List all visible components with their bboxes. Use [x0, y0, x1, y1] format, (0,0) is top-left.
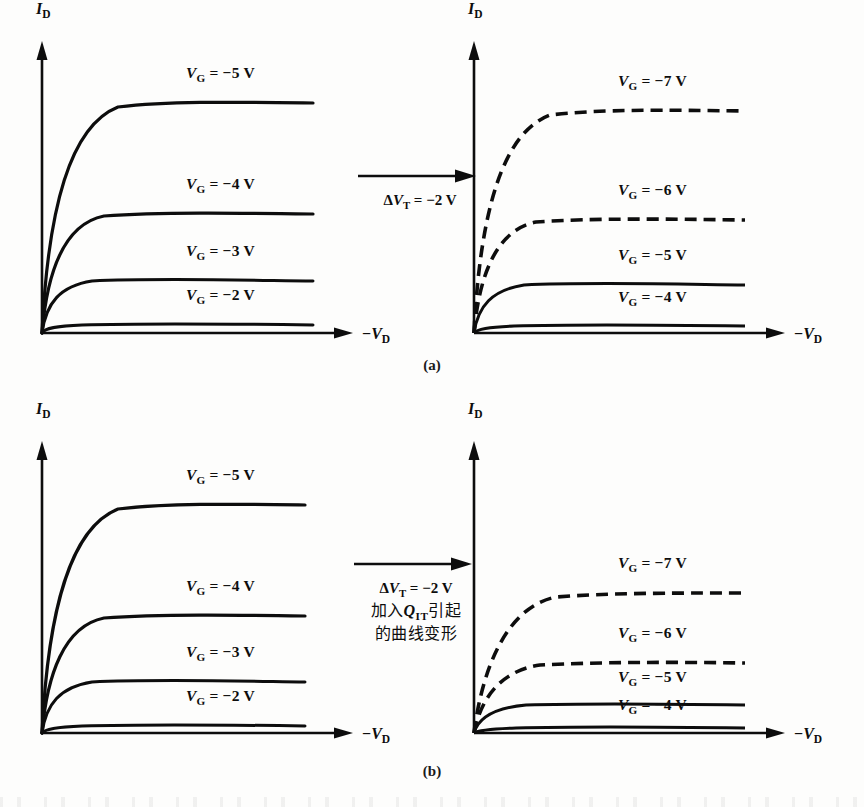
scan-artifact-strip — [0, 797, 864, 807]
curve-label-a-left-0: VG = −5 V — [186, 64, 255, 84]
x-axis-label-a-left: −VD — [362, 325, 390, 345]
curve-label-b-left-3: VG = −2 V — [186, 687, 255, 707]
curve-label-b-left-0: VG = −5 V — [186, 466, 255, 486]
curve-label-b-right-3: VG = −4 V — [618, 696, 687, 716]
panel-a-right: ID −VD VG = −7 V VG = −6 V VG = −5 V VG … — [432, 8, 852, 358]
curve-label-a-right-1: VG = −6 V — [618, 181, 687, 201]
y-axis-label-a-left: ID — [36, 0, 51, 20]
curve-vg-6 — [474, 662, 745, 733]
curve-vg-4 — [474, 325, 745, 333]
y-axis-arrowhead — [37, 41, 48, 60]
x-axis-arrowhead — [766, 728, 785, 739]
caption-b: (b) — [402, 763, 462, 780]
x-axis-arrowhead — [766, 328, 785, 339]
curve-label-b-left-2: VG = −3 V — [186, 643, 255, 663]
curve-vg-4 — [42, 615, 305, 733]
x-axis-arrowhead — [334, 328, 353, 339]
curves-b-left — [42, 504, 305, 733]
curves-a-right — [474, 110, 745, 333]
curve-vg-5 — [42, 504, 305, 733]
curve-label-a-right-3: VG = −4 V — [618, 288, 687, 308]
curve-vg-5 — [42, 102, 313, 333]
x-axis-label-a-right: −VD — [794, 325, 822, 345]
curve-label-b-right-1: VG = −6 V — [618, 624, 687, 644]
x-axis-label-b-left: −VD — [362, 725, 390, 745]
x-axis-arrowhead — [334, 728, 353, 739]
curve-vg-2 — [42, 324, 313, 333]
y-axis-arrowhead — [37, 441, 48, 460]
curve-vg-2 — [42, 725, 305, 733]
curve-vg-7 — [474, 110, 745, 333]
panel-b-right: ID −VD VG = −7 V VG = −6 V VG = −5 V VG … — [432, 408, 852, 758]
curve-vg-4 — [42, 213, 313, 333]
figure-page: ID −VD VG = −5 V VG = −4 V VG = −3 V VG … — [0, 0, 864, 807]
x-axis-label-b-right: −VD — [794, 725, 822, 745]
curve-label-a-left-2: VG = −3 V — [186, 242, 255, 262]
curve-label-a-right-2: VG = −5 V — [618, 246, 687, 266]
y-axis-label-b-right: ID — [468, 400, 483, 420]
curve-label-a-left-3: VG = −2 V — [186, 286, 255, 306]
curve-label-a-left-1: VG = −4 V — [186, 175, 255, 195]
caption-a: (a) — [402, 357, 462, 374]
curve-label-b-right-2: VG = −5 V — [618, 668, 687, 688]
y-axis-label-b-left: ID — [36, 400, 51, 420]
curve-label-b-left-1: VG = −4 V — [186, 577, 255, 597]
axes-b-right — [469, 441, 786, 739]
curve-label-a-right-0: VG = −7 V — [618, 72, 687, 92]
curve-vg-6 — [474, 219, 745, 333]
curve-label-b-right-0: VG = −7 V — [618, 554, 687, 574]
y-axis-arrowhead — [469, 441, 480, 460]
y-axis-label-a-right: ID — [468, 0, 483, 20]
curves-b-right — [474, 593, 745, 733]
curves-a-left — [42, 102, 313, 333]
y-axis-arrowhead — [469, 41, 480, 60]
